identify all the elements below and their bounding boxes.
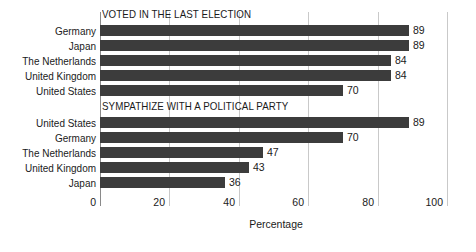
x-axis-title: Percentage	[0, 218, 476, 230]
x-tick-label-20: 20	[125, 196, 165, 208]
x-axis: Percentage 020406080100	[0, 0, 476, 252]
x-tick-label-80: 80	[334, 196, 374, 208]
x-tick-label-100: 100	[403, 196, 443, 208]
x-tick-label-60: 60	[264, 196, 304, 208]
x-axis-title-label: Percentage	[249, 218, 303, 230]
x-tick-label-0: 0	[56, 196, 96, 208]
bar-chart: VOTED IN THE LAST ELECTION Germany89Japa…	[0, 0, 476, 252]
x-tick-label-40: 40	[195, 196, 235, 208]
